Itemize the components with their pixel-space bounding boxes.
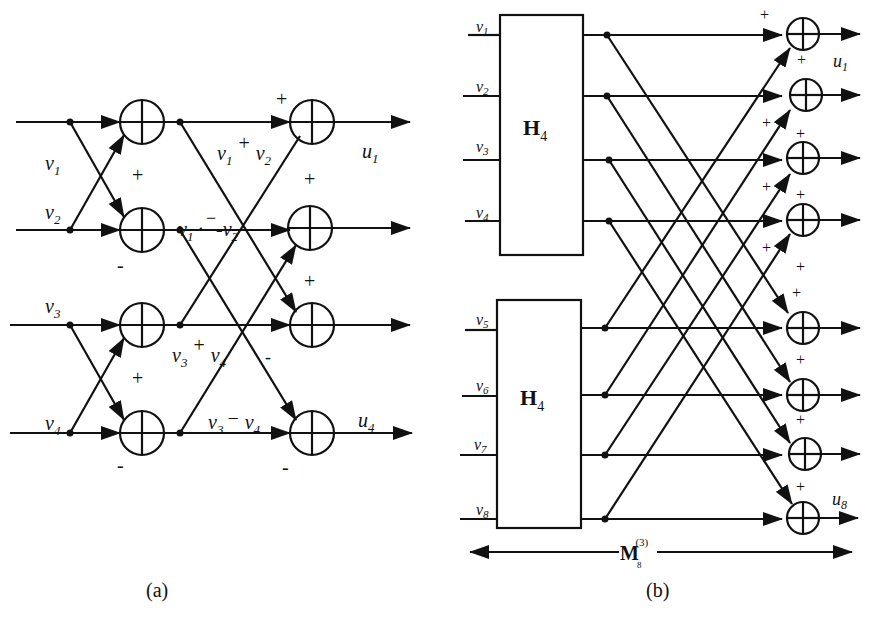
node-dot	[67, 119, 74, 126]
adder-icon	[787, 204, 819, 236]
caption-b: (b)	[646, 579, 669, 602]
sign-plus: +	[276, 88, 287, 110]
node-dot	[606, 218, 613, 225]
wire-cross-7-3	[605, 174, 790, 455]
adder-icon	[288, 206, 332, 250]
panel-a-nodes	[67, 119, 184, 437]
sign-minus: -	[282, 456, 289, 478]
sign-plus: +	[796, 411, 805, 428]
span-label-m8-3: M8(3)	[620, 536, 649, 570]
adder-icon	[787, 502, 819, 534]
wire-cross-8-4	[605, 234, 790, 519]
h4-block-label: H4	[523, 115, 547, 144]
adder-icon	[787, 312, 819, 344]
sign-plus: +	[760, 6, 769, 23]
node-dot	[606, 157, 613, 164]
hadamard-butterfly-diagram: v1 v2 v3 v4 + - + - + + + - - v1+v2 v1·-…	[0, 0, 874, 623]
wire-cross-1-2	[70, 122, 124, 217]
input-label-v3: v3	[476, 138, 489, 157]
sign-plus: +	[796, 258, 805, 275]
caption-a: (a)	[146, 579, 168, 602]
adder-icon	[120, 303, 164, 347]
adder-icon	[290, 100, 334, 144]
h4-block-label: H4	[520, 385, 544, 414]
h4-block-bottom	[497, 300, 581, 528]
panel-a	[10, 100, 412, 455]
sign-plus: +	[796, 186, 805, 203]
node-dot	[602, 516, 609, 523]
input-label-v2: v2	[45, 201, 61, 227]
sign-plus: +	[304, 270, 315, 292]
input-label-v7: v7	[474, 436, 487, 455]
input-label-v1: v1	[45, 152, 60, 178]
output-label-u1: u1	[362, 140, 379, 166]
input-label-v8: v8	[476, 501, 489, 520]
sign-plus: +	[304, 168, 315, 190]
node-dot	[177, 430, 184, 437]
adder-icon	[290, 411, 334, 455]
intermediate-label-v1-plus-v2: v1+v2	[217, 132, 272, 168]
sign-plus: +	[132, 367, 143, 389]
sign-plus: +	[762, 178, 771, 195]
sign-plus: +	[796, 125, 805, 142]
sign-minus: -	[117, 254, 124, 276]
node-dot	[602, 452, 609, 459]
adder-icon	[120, 411, 164, 455]
adder-icon	[290, 303, 334, 347]
node-dot	[67, 322, 74, 329]
adder-icon	[120, 208, 164, 252]
input-label-v5: v5	[476, 311, 489, 330]
adder-icon	[790, 79, 822, 111]
sign-plus: +	[797, 51, 806, 68]
wire-cross-4-8	[609, 221, 792, 504]
sign-plus: +	[792, 284, 801, 301]
input-label-v3: v3	[45, 295, 61, 321]
node-dot	[604, 93, 611, 100]
input-label-v4: v4	[476, 204, 489, 223]
sign-plus: +	[132, 164, 143, 186]
sign-minus: −	[206, 208, 216, 228]
node-dot	[602, 392, 609, 399]
sign-minus: -	[265, 347, 271, 367]
node-dot	[602, 325, 609, 332]
panel-b-nodes	[602, 32, 613, 523]
node-dot	[67, 227, 74, 234]
wire-cross-3-7	[609, 160, 790, 443]
input-label-v2: v2	[476, 78, 489, 97]
output-label-u1: u1	[833, 51, 848, 74]
wire-cross-1-5	[607, 35, 788, 313]
adder-icon	[787, 379, 819, 411]
node-dot	[604, 32, 611, 39]
sign-plus: +	[762, 239, 771, 256]
node-dot	[177, 119, 184, 126]
sign-plus: +	[796, 351, 805, 368]
adder-icon	[787, 18, 819, 50]
adder-icon	[120, 100, 164, 144]
sign-plus: +	[762, 114, 771, 131]
wire-cross-3-4	[70, 325, 124, 420]
input-label-v6: v6	[476, 377, 489, 396]
intermediate-label-v3-plus-v4: v3+v4	[172, 334, 227, 370]
input-label-v1: v1	[476, 18, 489, 37]
sign-minus: -	[117, 454, 124, 476]
node-dot	[177, 322, 184, 329]
adder-icon	[787, 142, 819, 174]
sign-plus: +	[796, 478, 805, 495]
wire-cross-4-3	[70, 338, 124, 433]
output-label-u4: u4	[358, 409, 375, 435]
node-dot	[67, 430, 74, 437]
output-label-u8: u8	[832, 489, 847, 512]
adder-icon	[789, 438, 821, 470]
wire-cross-2-1	[70, 135, 124, 230]
